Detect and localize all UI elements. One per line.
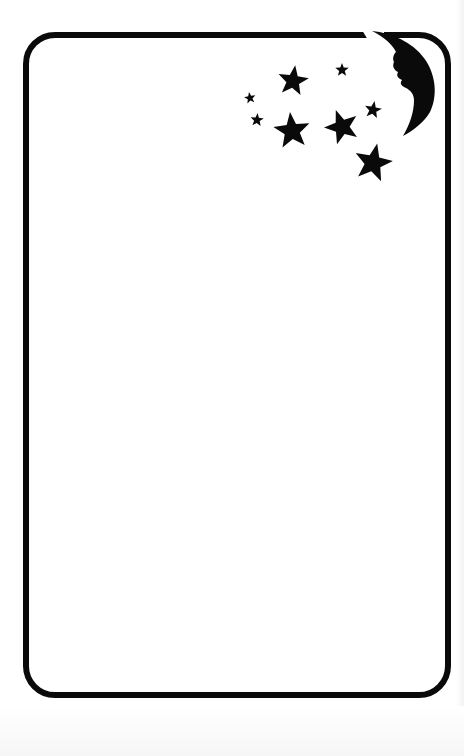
night-sky-decoration xyxy=(0,0,464,756)
stars-group xyxy=(244,63,393,181)
star-icon xyxy=(273,112,309,147)
star-icon xyxy=(335,63,348,76)
crescent-moon-icon xyxy=(372,31,435,136)
star-icon xyxy=(365,101,382,118)
star-icon xyxy=(324,110,357,144)
star-icon xyxy=(356,143,393,181)
star-icon xyxy=(279,65,309,95)
star-icon xyxy=(251,113,264,126)
star-icon xyxy=(244,92,255,103)
